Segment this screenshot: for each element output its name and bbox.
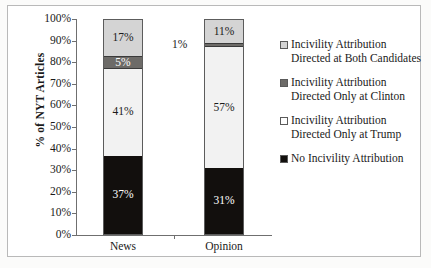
chart-root: % of NYT Articles 100% 90% 80% 70% 60% 5… bbox=[0, 0, 431, 268]
legend-item-both[interactable]: Incivility Attribution Directed at Both … bbox=[280, 38, 426, 65]
y-tick-mark bbox=[72, 105, 76, 106]
legend-label-both: Incivility Attribution Directed at Both … bbox=[291, 38, 426, 65]
y-tick-label-0: 0% bbox=[56, 229, 71, 241]
bar-opinion[interactable]: 11% 1% 57% 31% bbox=[204, 19, 244, 235]
x-label-opinion: Opinion bbox=[179, 241, 269, 253]
y-tick-label-100: 100% bbox=[44, 13, 71, 25]
legend-label-clinton: Incivility Attribution Directed Only at … bbox=[291, 76, 426, 103]
y-tick-mark bbox=[72, 170, 76, 171]
chart-frame: % of NYT Articles 100% 90% 80% 70% 60% 5… bbox=[7, 5, 421, 257]
bar-news[interactable]: 17% 5% 41% 37% bbox=[103, 19, 143, 235]
y-tick-label-60: 60% bbox=[50, 100, 71, 112]
y-tick-mark bbox=[72, 19, 76, 20]
segment-news-both[interactable]: 17% bbox=[104, 20, 142, 56]
y-tick-mark bbox=[72, 192, 76, 193]
legend-swatch-clinton-icon bbox=[280, 79, 288, 87]
y-tick-mark bbox=[72, 127, 76, 128]
legend-swatch-trump-icon bbox=[280, 117, 288, 125]
legend-label-none: No Incivility Attribution bbox=[291, 152, 403, 166]
y-tick-label-50: 50% bbox=[50, 121, 71, 133]
y-tick-label-40: 40% bbox=[50, 143, 71, 155]
y-tick-label-30: 30% bbox=[50, 164, 71, 176]
y-tick-mark bbox=[72, 213, 76, 214]
segment-news-clinton[interactable]: 5% bbox=[104, 56, 142, 69]
segment-opinion-none[interactable]: 31% bbox=[205, 168, 243, 234]
callout-opinion-clinton: 1% bbox=[172, 39, 187, 51]
y-tick-mark bbox=[72, 84, 76, 85]
x-label-news: News bbox=[78, 241, 168, 253]
y-tick-label-70: 70% bbox=[50, 78, 71, 90]
segment-opinion-trump[interactable]: 57% bbox=[205, 47, 243, 168]
y-tick-mark bbox=[72, 149, 76, 150]
y-tick-label-80: 80% bbox=[50, 56, 71, 68]
y-axis-line bbox=[76, 19, 77, 235]
x-tick-mark bbox=[174, 235, 175, 239]
segment-news-trump[interactable]: 41% bbox=[104, 69, 142, 156]
plot-area: 100% 90% 80% 70% 60% 50% 40% 30% 20% 10%… bbox=[76, 19, 272, 235]
legend-swatch-none-icon bbox=[280, 155, 288, 163]
chart-legend: Incivility Attribution Directed at Both … bbox=[280, 38, 426, 177]
segment-news-none[interactable]: 37% bbox=[104, 156, 142, 234]
legend-label-trump: Incivility Attribution Directed Only at … bbox=[291, 114, 426, 141]
legend-item-clinton[interactable]: Incivility Attribution Directed Only at … bbox=[280, 76, 426, 103]
legend-item-trump[interactable]: Incivility Attribution Directed Only at … bbox=[280, 114, 426, 141]
y-tick-mark bbox=[72, 41, 76, 42]
legend-item-none[interactable]: No Incivility Attribution bbox=[280, 152, 426, 166]
y-tick-mark bbox=[72, 62, 76, 63]
legend-swatch-both-icon bbox=[280, 41, 288, 49]
y-tick-label-10: 10% bbox=[50, 208, 71, 220]
y-axis-title: % of NYT Articles bbox=[34, 30, 46, 170]
y-tick-label-90: 90% bbox=[50, 35, 71, 47]
segment-opinion-both[interactable]: 11% bbox=[205, 20, 243, 43]
y-tick-label-20: 20% bbox=[50, 186, 71, 198]
y-tick-mark bbox=[72, 235, 76, 236]
